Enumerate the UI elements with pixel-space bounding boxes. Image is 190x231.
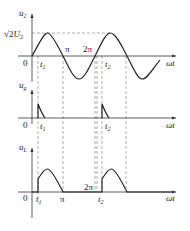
svg-text:ug: ug <box>19 80 27 91</box>
svg-text:0: 0 <box>23 193 28 203</box>
svg-text:π: π <box>60 194 65 204</box>
u2-origin-label: 0 <box>23 58 28 68</box>
svg-text:t1: t1 <box>40 59 46 70</box>
u2-2pi-label: 2π <box>83 44 93 54</box>
u2-pi-label: π <box>65 44 70 54</box>
u2-x-label: ωt <box>166 58 175 68</box>
ug-pulse-2 <box>102 104 109 118</box>
dashed-guides <box>32 33 126 200</box>
svg-text:t2: t2 <box>98 194 104 205</box>
plot-u2: u2 √2U2 0 t1 π 2π t2 ωt <box>4 8 176 82</box>
svg-text:t2: t2 <box>105 121 111 132</box>
svg-text:t1: t1 <box>36 194 42 205</box>
svg-text:ωt: ωt <box>166 193 175 203</box>
svg-text:t2: t2 <box>105 59 111 70</box>
svg-text:t1: t1 <box>40 121 46 132</box>
rectifier-waveform-diagram: u2 √2U2 0 t1 π 2π t2 ωt ug 0 t1 t2 ωt uL… <box>0 0 190 231</box>
svg-text:0: 0 <box>23 120 28 130</box>
ug-pulse-1 <box>38 104 45 118</box>
svg-text:uL: uL <box>19 142 28 153</box>
svg-text:√2U2: √2U2 <box>4 29 23 40</box>
svg-text:2π: 2π <box>84 182 94 192</box>
svg-text:u2: u2 <box>19 8 27 19</box>
svg-text:ωt: ωt <box>166 120 175 130</box>
